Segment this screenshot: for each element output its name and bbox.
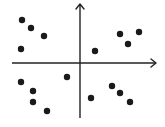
data-point-qiii [30, 99, 36, 105]
data-point-qii [19, 17, 25, 23]
data-point-qiii [18, 79, 24, 85]
quadrant-scatter-diagram [0, 0, 165, 127]
data-point-qiii [64, 74, 70, 80]
data-point-qi [136, 29, 142, 35]
data-point-qii [41, 33, 47, 39]
data-point-qiv [117, 90, 123, 96]
data-point-qiv [109, 83, 115, 89]
data-point-qii [18, 46, 24, 52]
data-point-qiv [88, 95, 94, 101]
data-point-qii [28, 25, 34, 31]
data-point-qi [92, 48, 98, 54]
data-point-qiii [30, 88, 36, 94]
data-point-qi [117, 31, 123, 37]
data-point-qi [125, 41, 131, 47]
data-point-qiii [44, 108, 50, 114]
data-point-qiv [127, 99, 133, 105]
